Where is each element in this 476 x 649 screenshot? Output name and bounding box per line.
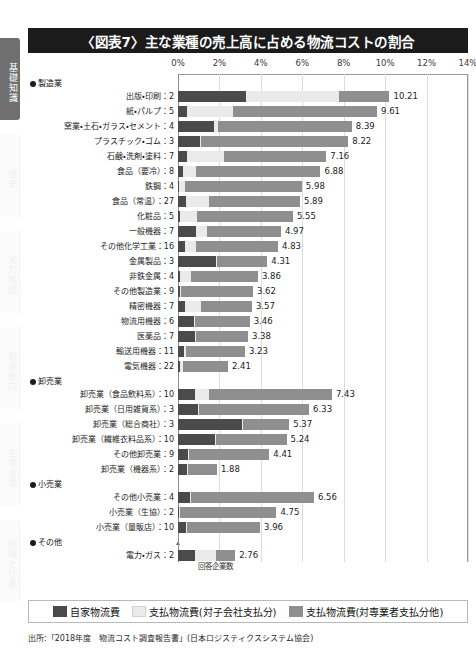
sidebar-tab-2[interactable]: 歴史 bbox=[0, 134, 20, 216]
row-label: 鉄鋼：4 bbox=[28, 179, 174, 194]
bar-segment-3 bbox=[195, 316, 250, 327]
legend-swatch-icon bbox=[289, 606, 303, 617]
row-label: その他製造業：9 bbox=[28, 284, 174, 299]
chart-legend: 自家物流費支払物流費(対子会社支払分)支払物流費(対専業者支払分他) bbox=[28, 600, 468, 623]
chart-row: 紙・パルプ：59.61 bbox=[28, 104, 468, 119]
bar-value-label: 4.41 bbox=[273, 448, 292, 461]
sidebar-tab-1[interactable]: 基礎知識 bbox=[0, 38, 20, 120]
bar-segment-1 bbox=[178, 331, 195, 342]
row-label: 医薬品：7 bbox=[28, 329, 174, 344]
legend-item-2: 支払物流費(対子会社支払分) bbox=[132, 604, 277, 619]
group-header-2: 小売業 bbox=[28, 477, 468, 490]
stacked-bar bbox=[178, 106, 377, 117]
sidebar-tab-6[interactable]: 組織と仕事 bbox=[0, 520, 20, 602]
page-title: 〈図表7〉主な業種の売上高に占める物流コストの割合 bbox=[28, 28, 468, 53]
bar-value-label: 7.16 bbox=[330, 150, 349, 163]
chart-row: 石鹸・洗剤・塗料：77.16 bbox=[28, 149, 468, 164]
bar-segment-3 bbox=[216, 434, 286, 445]
bar-value-label: 5.24 bbox=[291, 433, 310, 446]
bar-segment-3 bbox=[191, 271, 257, 282]
bar-segment-3 bbox=[186, 346, 245, 357]
bar-segment-1 bbox=[178, 106, 187, 117]
stacked-bar bbox=[178, 166, 321, 177]
bar-value-label: 2.41 bbox=[232, 360, 251, 373]
stacked-bar bbox=[178, 419, 289, 430]
row-label: プラスチック・ゴム：3 bbox=[28, 134, 174, 149]
sidebar-tab-label: 組織と仕事 bbox=[7, 539, 17, 589]
sidebar-tab-3[interactable]: 実力地図 bbox=[0, 231, 20, 313]
bar-value-label: 4.75 bbox=[280, 506, 299, 519]
chart-row: その他卸売業：94.41 bbox=[28, 447, 468, 462]
legend-label: 支払物流費(対専業者支払分他) bbox=[306, 604, 444, 619]
chart-row: 食品（常温）：275.89 bbox=[28, 194, 468, 209]
stacked-bar bbox=[178, 361, 228, 372]
bullet-icon bbox=[30, 540, 36, 546]
bar-segment-1 bbox=[178, 136, 200, 147]
chart-row: 出版・印刷：210.21 bbox=[28, 89, 468, 104]
x-tick-label-4: 8% bbox=[337, 58, 351, 68]
chart-row: その他小売業：46.56 bbox=[28, 490, 468, 505]
stacked-bar bbox=[178, 331, 248, 342]
bar-value-label: 3.38 bbox=[252, 330, 271, 343]
stacked-bar bbox=[178, 256, 267, 267]
bar-segment-3 bbox=[196, 241, 278, 252]
x-tick-label-5: 10% bbox=[376, 58, 395, 68]
bar-segment-3 bbox=[217, 256, 267, 267]
bar-segment-1 bbox=[178, 550, 195, 561]
chart-row: 卸売業（繊維衣料品系）：105.24 bbox=[28, 432, 468, 447]
chart-row: 鉄鋼：45.98 bbox=[28, 179, 468, 194]
chart-row: 化粧品：55.55 bbox=[28, 209, 468, 224]
row-label: その他卸売業：9 bbox=[28, 447, 174, 462]
bar-segment-3 bbox=[243, 419, 289, 430]
group-header-1: 卸売業 bbox=[28, 374, 468, 387]
bullet-icon bbox=[30, 379, 36, 385]
bar-value-label: 5.37 bbox=[293, 418, 312, 431]
stacked-bar bbox=[178, 522, 260, 533]
bar-value-label: 8.22 bbox=[352, 135, 371, 148]
row-label: 電気機器：22 bbox=[28, 359, 174, 374]
group-header-3: その他 bbox=[28, 535, 468, 548]
bar-segment-1 bbox=[178, 522, 186, 533]
bar-segment-2 bbox=[187, 151, 223, 162]
stacked-bar bbox=[178, 151, 326, 162]
stacked-bar bbox=[178, 301, 252, 312]
sidebar-tab-5[interactable]: 主要企業 bbox=[0, 423, 20, 505]
bar-value-label: 5.89 bbox=[304, 195, 323, 208]
group-name: 卸売業 bbox=[38, 377, 62, 386]
chart-row: 医薬品：73.38 bbox=[28, 329, 468, 344]
bar-value-label: 4.31 bbox=[271, 255, 290, 268]
stacked-bar bbox=[178, 271, 258, 282]
bar-segment-1 bbox=[178, 226, 196, 237]
bullet-icon bbox=[30, 482, 36, 488]
bar-segment-3 bbox=[197, 211, 293, 222]
stacked-bar bbox=[178, 211, 293, 222]
row-label: 卸売業（機器系）：2 bbox=[28, 462, 174, 477]
bar-segment-3 bbox=[218, 121, 352, 132]
chart-row: 窯業・土石・ガラス・セメント：48.39 bbox=[28, 119, 468, 134]
bar-segment-1 bbox=[178, 121, 214, 132]
row-label: 物流用機器：6 bbox=[28, 314, 174, 329]
row-label: 石鹸・洗剤・塗料：7 bbox=[28, 149, 174, 164]
row-label: 精密機器：7 bbox=[28, 299, 174, 314]
bar-segment-1 bbox=[178, 434, 215, 445]
chart-row: 精密機器：73.57 bbox=[28, 299, 468, 314]
chart-row: 一般機器：74.97 bbox=[28, 224, 468, 239]
group-name: 小売業 bbox=[38, 480, 62, 489]
row-label: 小売業（生協）：2 bbox=[28, 505, 174, 520]
bar-segment-3 bbox=[209, 196, 300, 207]
bar-segment-2 bbox=[246, 91, 338, 102]
bar-value-label: 3.23 bbox=[249, 345, 268, 358]
sidebar-tab-4[interactable]: 最新動向 bbox=[0, 327, 20, 409]
bar-segment-3 bbox=[209, 389, 331, 400]
bar-segment-2 bbox=[185, 301, 201, 312]
stacked-bar bbox=[178, 196, 300, 207]
bar-segment-1 bbox=[178, 91, 246, 102]
legend-label: 支払物流費(対子会社支払分) bbox=[149, 604, 277, 619]
group-name: 製造業 bbox=[38, 79, 62, 88]
legend-item-3: 支払物流費(対専業者支払分他) bbox=[289, 604, 444, 619]
row-label: 輸送用機器：11 bbox=[28, 344, 174, 359]
stacked-bar bbox=[178, 464, 217, 475]
bar-segment-3 bbox=[201, 136, 348, 147]
bar-segment-3 bbox=[180, 507, 276, 518]
chart-row: 卸売業（機器系）：21.88 bbox=[28, 462, 468, 477]
